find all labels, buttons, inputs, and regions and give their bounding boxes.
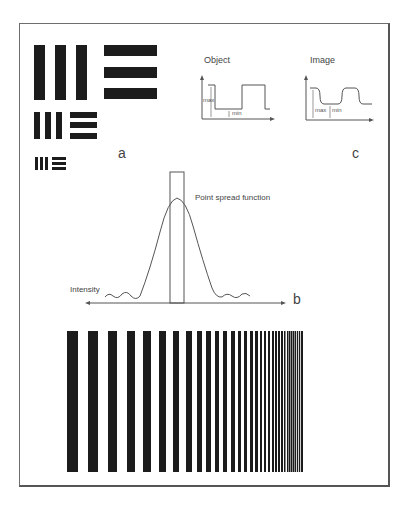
grating-bar (197, 331, 202, 472)
target-bar-medium (70, 122, 97, 128)
psf-plot (85, 172, 286, 305)
grating-bar (244, 331, 247, 472)
grating-bar (268, 331, 270, 472)
grating-bar (127, 331, 135, 472)
grating-bar (88, 331, 98, 472)
axis-right-arrow-icon (281, 301, 286, 305)
target-bar-large (76, 45, 87, 100)
grating-bar (278, 331, 280, 472)
grating-bar (206, 331, 211, 472)
target-bar-small (52, 162, 66, 165)
grating-bar (289, 331, 291, 472)
object-x-arrow-icon (270, 117, 275, 121)
frequency-grating (67, 331, 303, 472)
figure-canvas (0, 0, 410, 509)
grating-bar (108, 331, 117, 472)
image-x-arrow-icon (369, 118, 374, 122)
object-y-arrow-icon (200, 75, 204, 80)
target-bar-medium (45, 112, 51, 139)
target-bar-large (55, 45, 66, 100)
grating-bar (291, 331, 293, 472)
target-bar-small (40, 157, 43, 170)
object-min-label: min (232, 110, 242, 116)
grating-bar (255, 331, 258, 472)
grating-bar (143, 331, 151, 472)
grating-bar (260, 331, 262, 472)
image-y-arrow-icon (304, 75, 308, 80)
target-bar-medium (34, 112, 40, 139)
target-bar-small (52, 167, 66, 170)
grating-bar (301, 331, 303, 472)
psf-label: Point spread function (195, 193, 270, 202)
grating-bar (231, 331, 235, 472)
image-blurred-wave (310, 88, 372, 104)
target-bar-medium (70, 112, 97, 118)
target-bar-large (104, 88, 157, 99)
grating-bar (293, 331, 295, 472)
grating-bar (281, 331, 283, 472)
target-bar-small (45, 157, 48, 170)
intensity-label: Intensity (70, 285, 100, 294)
image-plot (304, 75, 374, 122)
target-bar-medium (56, 112, 62, 139)
grating-bar (159, 331, 166, 472)
grating-bar (299, 331, 300, 472)
grating-bar (297, 331, 298, 472)
grating-bar (272, 331, 274, 472)
axis-left-arrow-icon (85, 301, 90, 305)
panel-label-b: b (293, 291, 301, 307)
image-min-label: min (332, 107, 342, 113)
grating-bar (287, 331, 289, 472)
psf-curve (105, 198, 250, 299)
grating-bar (250, 331, 253, 472)
grating-bar (215, 331, 219, 472)
target-bar-medium (70, 133, 97, 139)
object-title: Object (204, 55, 230, 65)
target-bar-small (52, 157, 66, 160)
panel-label-a: a (118, 145, 126, 161)
grating-bar (264, 331, 266, 472)
panel-label-c: c (352, 145, 359, 161)
target-bar-small (35, 157, 38, 170)
grating-bar (284, 331, 286, 472)
target-bar-large (104, 67, 157, 78)
grating-bar (295, 331, 296, 472)
resolution-target-bars (34, 45, 157, 170)
grating-bar (186, 331, 192, 472)
grating-bar (238, 331, 241, 472)
grating-bar (223, 331, 227, 472)
grating-bar (275, 331, 277, 472)
object-square-wave (208, 85, 270, 109)
image-max-label: max (315, 107, 326, 113)
target-bar-large (34, 45, 45, 100)
aperture-rectangle (170, 172, 184, 303)
grating-bar (173, 331, 179, 472)
target-bar-large (104, 45, 157, 56)
image-title: Image (310, 55, 335, 65)
object-max-label: max (203, 97, 214, 103)
grating-bar (67, 331, 78, 472)
